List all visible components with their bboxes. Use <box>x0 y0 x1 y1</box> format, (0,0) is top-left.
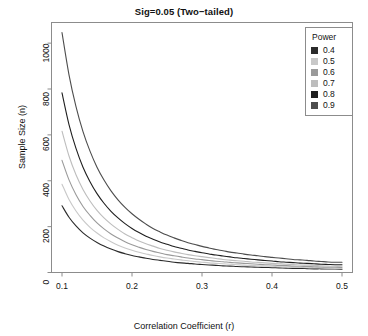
legend-swatch-icon <box>311 69 318 76</box>
legend-label: 0.8 <box>323 89 335 100</box>
y-axis-label: Sample Size (n) <box>17 57 27 217</box>
y-tick-label: 400 <box>41 180 51 200</box>
legend-label: 0.9 <box>323 100 335 111</box>
curve-power-0.8 <box>62 93 342 265</box>
x-tick-label: 0.3 <box>187 281 217 291</box>
x-tick-label: 0.4 <box>257 281 287 291</box>
x-axis-label: Correlation Coefficient (r) <box>0 321 368 331</box>
axis-ticks <box>48 43 343 276</box>
data-curves <box>62 33 342 270</box>
legend-swatch-icon <box>311 91 318 98</box>
legend-item-0.9: 0.9 <box>311 100 346 111</box>
legend-item-0.8: 0.8 <box>311 89 346 100</box>
legend-item-0.7: 0.7 <box>311 78 346 89</box>
curve-power-0.5 <box>62 184 342 268</box>
chart-title: Sig=0.05 (Two−tailed) <box>0 6 368 17</box>
curve-power-0.9 <box>62 33 342 263</box>
y-tick-label: 800 <box>41 89 51 109</box>
y-tick-label: 1000 <box>41 43 51 63</box>
x-tick-label: 0.2 <box>117 281 147 291</box>
y-tick-label: 0 <box>41 272 51 292</box>
legend-label: 0.5 <box>323 56 335 67</box>
x-tick-label: 0.1 <box>47 281 77 291</box>
legend-entries: 0.40.50.60.70.80.9 <box>311 45 346 111</box>
legend-swatch-icon <box>311 47 318 54</box>
legend: Power 0.40.50.60.70.80.9 <box>305 27 353 116</box>
legend-item-0.5: 0.5 <box>311 56 346 67</box>
y-tick-label: 600 <box>41 134 51 154</box>
curve-power-0.6 <box>62 160 342 267</box>
legend-swatch-icon <box>311 58 318 65</box>
legend-swatch-icon <box>311 80 318 87</box>
legend-item-0.6: 0.6 <box>311 67 346 78</box>
legend-title: Power <box>311 32 346 42</box>
legend-label: 0.4 <box>323 45 335 56</box>
legend-label: 0.7 <box>323 78 335 89</box>
x-tick-label: 0.5 <box>327 281 357 291</box>
legend-swatch-icon <box>311 102 318 109</box>
legend-label: 0.6 <box>323 67 335 78</box>
legend-item-0.4: 0.4 <box>311 45 346 56</box>
chart-figure: Sig=0.05 (Two−tailed) Correlation Coeffi… <box>0 0 368 336</box>
y-tick-label: 200 <box>41 226 51 246</box>
